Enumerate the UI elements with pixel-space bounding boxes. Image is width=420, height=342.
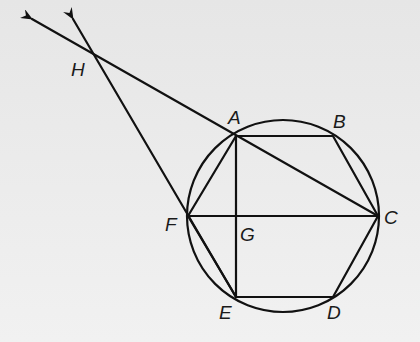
label-point-f: F: [165, 215, 177, 234]
ray-ef-through-h: [73, 19, 236, 297]
geometry-diagram: A B C D E F G H: [0, 0, 420, 342]
diagram-canvas: [0, 0, 420, 342]
label-point-a: A: [228, 108, 241, 127]
label-point-d: D: [327, 303, 341, 322]
label-point-h: H: [71, 60, 85, 79]
label-point-e: E: [219, 303, 232, 322]
label-point-b: B: [333, 112, 346, 131]
label-point-g: G: [240, 225, 255, 244]
label-point-c: C: [384, 208, 398, 227]
